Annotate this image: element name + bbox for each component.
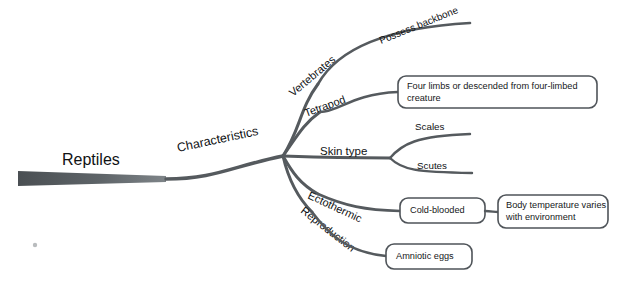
branch-scales[interactable]: Scales	[390, 121, 470, 158]
branch-scutes[interactable]: Scutes	[390, 158, 472, 173]
scutes-label: Scutes	[417, 160, 447, 171]
characteristics-label: Characteristics	[176, 124, 260, 155]
mind-map-canvas: Reptiles Characteristics Vertebrates Pos…	[0, 0, 625, 291]
scales-label: Scales	[415, 121, 445, 132]
four-limbs-text-line-2: creature	[407, 93, 441, 103]
root-node[interactable]: Reptiles	[18, 151, 166, 186]
node-body-temperature[interactable]: Body temperature varies with environment	[485, 195, 608, 228]
vertebrates-line	[283, 84, 318, 156]
characteristics-branch[interactable]: Characteristics	[166, 124, 283, 179]
branch-skin-type[interactable]: Skin type	[283, 145, 390, 158]
scales-line	[390, 134, 470, 158]
skin-type-label: Skin type	[320, 145, 367, 157]
body-temperature-text-line-2: with environment	[505, 212, 576, 222]
root-trunk-shape	[18, 171, 166, 186]
body-temperature-text-line-1: Body temperature varies	[506, 200, 606, 210]
four-limbs-text-line-1: Four limbs or descended from four-limbed	[407, 81, 578, 91]
branch-possess-backbone[interactable]: Possess backbone	[318, 4, 470, 84]
amniotic-eggs-text: Amniotic eggs	[396, 251, 454, 261]
cold-blooded-text: Cold-blooded	[410, 205, 465, 215]
node-four-limbs[interactable]: Four limbs or descended from four-limbed…	[320, 76, 597, 112]
root-label: Reptiles	[62, 151, 120, 168]
characteristics-stem-line	[166, 156, 283, 179]
scan-artifact-speck	[33, 243, 37, 247]
body-temperature-connector	[485, 211, 498, 212]
